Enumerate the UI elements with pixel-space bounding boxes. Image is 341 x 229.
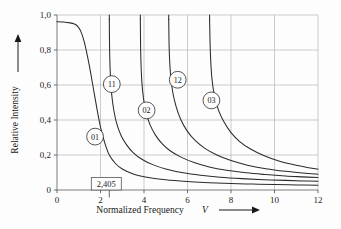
x-tick-label: 12: [314, 195, 323, 205]
y-axis-title: Relative Intensity: [10, 86, 20, 154]
figure-container: 024681012 00,20,40,60,81,0 0111021203 2,…: [0, 0, 341, 229]
y-tick-label: 0,8: [40, 45, 52, 55]
mode-label-text: 01: [91, 133, 99, 142]
y-tick-label: 0,6: [40, 80, 52, 90]
y-tick-label: 0,2: [40, 150, 51, 160]
mode-label-text: 03: [207, 96, 215, 105]
cutoff-value-text: 2,405: [97, 179, 116, 189]
mode-label-text: 12: [174, 76, 182, 85]
y-tick-label: 0,4: [40, 115, 52, 125]
x-axis-title: Normalized Frequency: [96, 205, 184, 215]
mode-label-text: 02: [143, 106, 151, 115]
x-tick-label: 8: [229, 195, 234, 205]
y-tick-label: 0: [47, 185, 52, 195]
x-tick-label: 4: [142, 195, 147, 205]
mode-label-text: 11: [108, 80, 116, 89]
bessel-mode-intensity-chart: 024681012 00,20,40,60,81,0 0111021203 2,…: [0, 0, 341, 229]
x-tick-label: 6: [185, 195, 190, 205]
chart-annotations: 2,405: [91, 178, 121, 191]
x-tick-label: 2: [98, 195, 103, 205]
x-tick-label: 0: [55, 195, 60, 205]
x-tick-label: 10: [270, 195, 280, 205]
y-tick-label: 1,0: [40, 10, 52, 20]
chart-background: [0, 0, 341, 229]
